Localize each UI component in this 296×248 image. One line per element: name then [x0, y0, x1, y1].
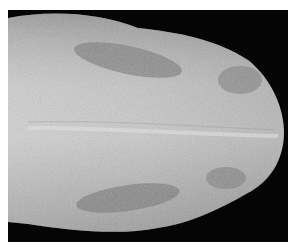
tongue-image: [8, 10, 288, 242]
photo-frame: [8, 10, 288, 242]
